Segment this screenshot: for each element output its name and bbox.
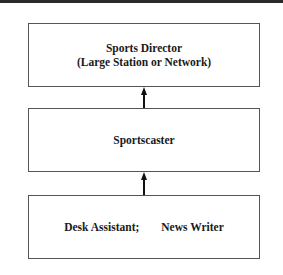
node-desk-assistant-label: Desk Assistant; — [64, 220, 139, 234]
node-sportscaster: Sportscaster — [28, 108, 260, 172]
top-rule — [0, 0, 283, 3]
arrow-up-icon — [141, 172, 147, 195]
node-sportscaster-label: Sportscaster — [113, 133, 174, 147]
node-entry-level: Desk Assistant; News Writer — [28, 195, 260, 259]
node-sports-director-title: Sports Director — [77, 41, 211, 55]
node-news-writer-label: News Writer — [161, 220, 224, 234]
node-sports-director-subtitle: (Large Station or Network) — [77, 55, 211, 69]
arrow-up-icon — [141, 87, 147, 108]
node-sports-director: Sports Director (Large Station or Networ… — [28, 23, 260, 87]
